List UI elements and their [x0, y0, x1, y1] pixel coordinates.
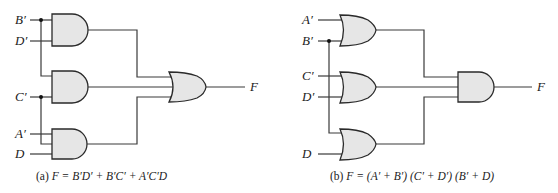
- input-label-d-prime: D′: [14, 33, 27, 48]
- or-gate-3: [340, 129, 376, 160]
- wire-or3-to-and: [376, 97, 458, 144]
- caption-b-prefix: (b): [330, 170, 346, 183]
- caption-b-expr: = (A′ + B′) (C′ + D′) (B′ + D): [353, 170, 494, 183]
- wire-b-prime-branch: [41, 20, 52, 76]
- input-label-d-prime: D′: [301, 89, 314, 104]
- wire-or1-to-and: [376, 30, 458, 77]
- caption-a-expr: = B′D′ + B′C′ + A′C′D: [59, 170, 168, 182]
- wire-and3-to-or: [87, 97, 172, 144]
- wire-and1-to-or: [88, 30, 172, 77]
- diagram-a: B′ D′ C′ A′ D F (a) F = B′D′ + B′C′ + A′…: [14, 12, 259, 183]
- input-label-d: D: [301, 146, 312, 161]
- or-gate-output: [169, 72, 206, 102]
- diagram-b: A′ B′ C′ D′ D F (b) F = (A′ + B′) (C′ + …: [301, 12, 546, 183]
- junction-dot: [39, 18, 43, 22]
- input-label-a-prime: A′: [301, 12, 313, 27]
- or-gate-1: [340, 15, 376, 46]
- caption-a: (a) F = B′D′ + B′C′ + A′C′D: [36, 170, 168, 183]
- and-gate-2: [52, 71, 88, 103]
- and-gate-output: [458, 72, 494, 102]
- input-label-a-prime: A′: [14, 126, 26, 141]
- input-label-c-prime: C′: [302, 68, 314, 83]
- input-label-d: D: [14, 146, 25, 161]
- logic-diagrams: B′ D′ C′ A′ D F (a) F = B′D′ + B′C′ + A′…: [0, 0, 558, 193]
- input-label-b-prime: B′: [15, 12, 26, 27]
- output-label-f: F: [249, 79, 259, 94]
- input-label-b-prime: B′: [302, 33, 313, 48]
- and-gate-3: [52, 129, 87, 159]
- output-label-f: F: [536, 79, 546, 94]
- junction-dot: [327, 39, 331, 43]
- and-gate-1: [52, 14, 88, 46]
- caption-b: (b) F = (A′ + B′) (C′ + D′) (B′ + D): [330, 170, 494, 183]
- junction-dot: [39, 95, 43, 99]
- or-gate-2: [340, 72, 376, 103]
- wire-b-prime-branch: [329, 41, 342, 133]
- wire-c-prime-branch: [41, 97, 52, 144]
- input-label-c-prime: C′: [15, 89, 27, 104]
- caption-a-prefix: (a): [36, 170, 52, 183]
